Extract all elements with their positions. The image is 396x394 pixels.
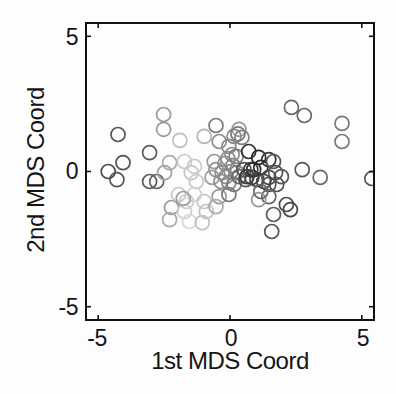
scatter-point [111,128,125,142]
scatter-point [313,170,327,184]
scatter-point [116,156,130,170]
scatter-point [265,225,279,239]
y-axis-title: 2nd MDS Coord [24,51,48,289]
scatter-point [295,163,309,177]
scatter-point [335,116,349,130]
scatter-point [297,109,311,123]
y-tick-label-5: 5 [28,26,78,49]
plot-area [85,22,375,321]
scatter-point [212,190,226,204]
x-axis-title: 1st MDS Coord [110,349,350,373]
scatter-point [235,130,249,144]
scatter-point [110,173,124,187]
scatter-point [284,100,298,114]
scatter-point [157,108,171,122]
scatter-point [157,122,171,136]
y-tick-label-neg5: -5 [28,296,78,319]
scatter-point [335,135,349,149]
scatter-point [197,129,211,143]
x-tick-label-neg5: -5 [67,327,127,350]
scatter-point [267,208,281,222]
x-tick-label-5: 5 [333,327,393,350]
scatter-point [143,146,157,160]
mds-scatter-figure: 5 0 -5 -5 0 5 1st MDS Coord 2nd MDS Coor… [0,0,396,394]
scatter-point [173,133,187,147]
scatter-point [101,165,115,179]
scatter-point [209,119,223,133]
